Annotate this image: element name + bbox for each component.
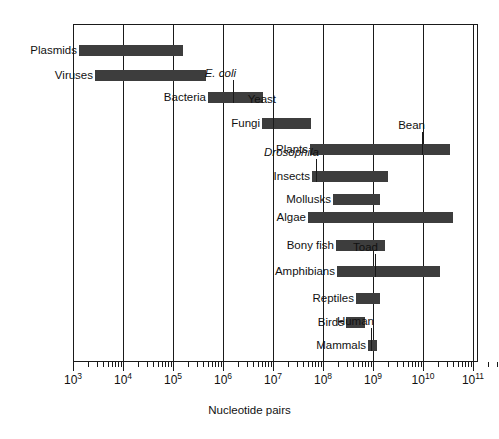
axis-tick-label-1e9: 109	[364, 373, 382, 387]
axis-tick-minor	[112, 362, 113, 367]
axis-tick-minor	[297, 362, 298, 367]
axis-tick-minor	[462, 362, 463, 367]
axis-tick-major-1e3	[73, 362, 74, 371]
axis-tick-minor	[447, 362, 448, 367]
axis-tick-label-1e5: 105	[164, 373, 182, 387]
callout-e-coli: E. coli	[0, 67, 236, 79]
axis-tick-label-1e8: 108	[314, 373, 332, 387]
axis-tick-minor	[408, 362, 409, 367]
axis-tick-minor	[215, 362, 216, 367]
axis-tick-major-1e7	[273, 362, 274, 371]
axis-tick-minor	[265, 362, 266, 367]
axis-tick-minor	[397, 362, 398, 367]
axis-tick-minor	[365, 362, 366, 367]
axis-tick-major-1e9	[373, 362, 374, 371]
axis-tick-major-1e4	[123, 362, 124, 371]
axis-tick-minor	[238, 362, 239, 367]
range-bar	[356, 293, 380, 304]
range-bar	[308, 212, 453, 223]
axis-tick-minor	[108, 362, 109, 367]
row-label-mammals: Mammals	[0, 339, 366, 351]
x-axis-title: Nucleotide pairs	[0, 404, 499, 416]
axis-tick-minor	[453, 362, 454, 367]
axis-tick-minor	[497, 362, 498, 367]
axis-tick-minor	[203, 362, 204, 367]
range-bar	[79, 45, 183, 56]
row-label-amphibians: Amphibians	[0, 265, 335, 277]
axis-tick-minor	[308, 362, 309, 367]
axis-tick-label-1e3: 103	[64, 373, 82, 387]
axis-tick-minor	[415, 362, 416, 367]
axis-tick-minor	[268, 362, 269, 367]
range-bar	[333, 194, 380, 205]
axis-tick-minor	[488, 362, 489, 367]
axis-tick-major-1e10	[423, 362, 424, 371]
axis-tick-minor	[418, 362, 419, 367]
axis-tick-major-1e6	[223, 362, 224, 371]
row-label-mollusks: Mollusks	[0, 193, 331, 205]
axis-tick-minor	[115, 362, 116, 367]
marker-tick-human	[371, 328, 372, 351]
axis-tick-minor	[218, 362, 219, 367]
axis-tick-minor	[188, 362, 189, 367]
marker-tick-toad	[375, 254, 376, 277]
axis-tick-minor	[353, 362, 354, 367]
callout-drosophila: Drosophila	[0, 146, 319, 158]
axis-tick-minor	[421, 362, 422, 367]
marker-tick-drosophila	[316, 159, 317, 182]
axis-tick-minor	[468, 362, 469, 367]
axis-tick-minor	[118, 362, 119, 367]
callout-human: Human	[0, 315, 374, 327]
axis-tick-major-1e5	[173, 362, 174, 371]
axis-tick-label-1e11: 1011	[462, 373, 484, 387]
axis-tick-minor	[168, 362, 169, 367]
axis-tick-minor	[458, 362, 459, 367]
axis-tick-label-1e7: 107	[264, 373, 282, 387]
x-axis-ticks	[73, 362, 478, 371]
callout-bean: Bean	[0, 119, 425, 131]
axis-tick-minor	[212, 362, 213, 367]
axis-tick-label-1e10: 1010	[412, 373, 435, 387]
axis-tick-minor	[358, 362, 359, 367]
axis-tick-major-1e11	[473, 362, 474, 371]
axis-tick-minor	[271, 362, 272, 367]
axis-tick-minor	[147, 362, 148, 367]
axis-tick-minor	[162, 362, 163, 367]
axis-tick-minor	[208, 362, 209, 367]
axis-tick-minor	[262, 362, 263, 367]
axis-tick-minor	[121, 362, 122, 367]
axis-tick-minor	[465, 362, 466, 367]
axis-tick-minor	[388, 362, 389, 367]
axis-tick-minor	[321, 362, 322, 367]
axis-tick-label-1e6: 106	[214, 373, 232, 387]
axis-tick-minor	[288, 362, 289, 367]
axis-tick-minor	[438, 362, 439, 367]
axis-tick-minor	[471, 362, 472, 367]
row-label-plasmids: Plasmids	[0, 44, 77, 56]
gridline-1e9	[373, 24, 374, 362]
axis-tick-minor	[253, 362, 254, 367]
axis-tick-minor	[153, 362, 154, 367]
axis-tick-minor	[403, 362, 404, 367]
range-bar	[312, 171, 388, 182]
marker-tick-bean	[422, 132, 423, 155]
axis-tick-minor	[347, 362, 348, 367]
range-bar	[337, 266, 440, 277]
axis-tick-minor	[315, 362, 316, 367]
axis-tick-minor	[318, 362, 319, 367]
gridline-1e10	[423, 24, 424, 362]
range-bar	[368, 340, 377, 351]
genome-size-range-chart: PlasmidsVirusesBacteriaFungiPlantsInsect…	[0, 0, 499, 439]
axis-tick-minor	[312, 362, 313, 367]
axis-tick-minor	[338, 362, 339, 367]
axis-tick-minor	[158, 362, 159, 367]
gridline-1e11	[473, 24, 474, 362]
axis-tick-minor	[368, 362, 369, 367]
axis-tick-minor	[171, 362, 172, 367]
axis-tick-major-1e8	[323, 362, 324, 371]
axis-tick-minor	[412, 362, 413, 367]
axis-tick-minor	[88, 362, 89, 367]
axis-tick-minor	[371, 362, 372, 367]
axis-tick-minor	[138, 362, 139, 367]
axis-tick-label-1e4: 104	[114, 373, 132, 387]
